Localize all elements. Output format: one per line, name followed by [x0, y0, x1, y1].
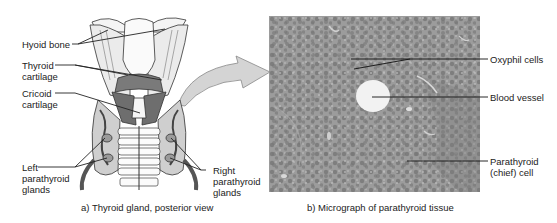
label-blood-vessel: Blood vessel	[490, 92, 544, 103]
label-left-parathyroid-glands: Left parathyroid glands	[22, 162, 70, 195]
label-cricoid-cartilage: Cricoid cartilage	[22, 88, 58, 110]
leader-lines-panel-b	[351, 59, 488, 161]
label-oxyphil-cells: Oxyphil cells	[490, 54, 543, 65]
label-right-parathyroid-glands: Right parathyroid glands	[213, 165, 261, 198]
caption-panel-a: a) Thyroid gland, posterior view	[81, 202, 213, 213]
caption-panel-b: b) Micrograph of parathyroid tissue	[307, 202, 454, 213]
label-thyroid-cartilage: Thyroid cartilage	[22, 60, 58, 82]
label-parathyroid-chief-cell: Parathyroid (chief) cell	[490, 156, 539, 178]
thyroid-illustration	[82, 18, 197, 190]
diagram-canvas	[0, 0, 557, 223]
label-hyoid-bone: Hyoid bone	[22, 39, 70, 50]
curved-arrow-icon	[178, 56, 270, 106]
